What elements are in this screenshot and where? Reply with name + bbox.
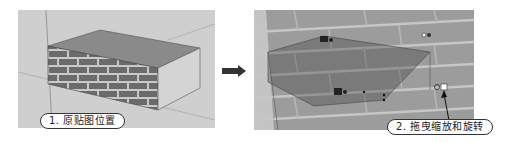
step-2-label: 2. 拖曳缩放和旋转: [387, 119, 493, 135]
right-arrow-icon: [222, 65, 246, 77]
texture-edit-viewport[interactable]: [254, 10, 474, 130]
original-texture-viewport: [18, 10, 215, 128]
brick-box-model: [18, 10, 215, 128]
step-1-label: 1. 原贴图位置: [40, 113, 125, 129]
brick-wall-texture: [254, 10, 474, 130]
